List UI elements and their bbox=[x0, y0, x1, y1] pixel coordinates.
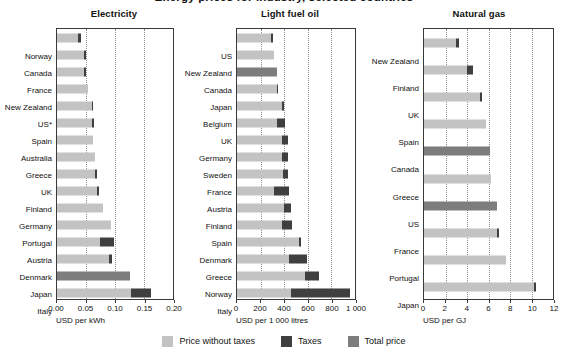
bar-segment-taxes bbox=[100, 237, 114, 246]
x-tick bbox=[489, 300, 490, 303]
bar-segment-price-without-taxes bbox=[237, 101, 282, 110]
bar-segment-price-without-taxes bbox=[237, 254, 289, 263]
x-tick-label: 0.20 bbox=[166, 304, 182, 313]
x-tick bbox=[510, 300, 511, 303]
bar-segment-taxes bbox=[467, 65, 473, 74]
figure-title: Energy prices for industry, selected cou… bbox=[0, 0, 568, 3]
x-tick bbox=[445, 300, 446, 303]
bar-spain bbox=[237, 220, 292, 229]
bar-segment-taxes bbox=[282, 101, 283, 110]
bar-new-zealand bbox=[237, 50, 274, 59]
x-axis-title: USD per GJ bbox=[423, 316, 466, 325]
category-label: Sweden bbox=[203, 172, 232, 180]
bar-segment-price-without-taxes bbox=[424, 93, 480, 102]
gridline bbox=[308, 29, 309, 299]
category-label: Portugal bbox=[389, 275, 419, 283]
x-tick bbox=[284, 300, 285, 303]
bar-denmark bbox=[237, 237, 301, 246]
bar-segment-total-price bbox=[424, 147, 490, 156]
bar-segment-taxes bbox=[305, 271, 319, 280]
category-label: Finland bbox=[26, 206, 52, 214]
x-axis-title: USD per 1 000 litres bbox=[236, 316, 308, 325]
x-tick bbox=[467, 300, 468, 303]
bar-segment-total-price bbox=[237, 67, 277, 76]
bar-segment-taxes bbox=[109, 254, 112, 263]
category-label: Greece bbox=[26, 172, 52, 180]
category-label: Australia bbox=[21, 155, 52, 163]
bar-germany bbox=[57, 203, 103, 212]
bar-austria bbox=[237, 186, 289, 195]
x-tick-label: 800 bbox=[325, 304, 338, 313]
bar-segment-taxes bbox=[282, 135, 287, 144]
category-label: US bbox=[408, 221, 419, 229]
bar-segment-price-without-taxes bbox=[424, 229, 497, 238]
bar-segment-taxes bbox=[95, 169, 97, 178]
bar-segment-taxes bbox=[289, 254, 307, 263]
bar-canada bbox=[57, 50, 86, 59]
bar-segment-price-without-taxes bbox=[424, 65, 467, 74]
category-label: Portugal bbox=[22, 240, 52, 248]
bar-segment-price-without-taxes bbox=[57, 186, 97, 195]
x-tick bbox=[174, 300, 175, 303]
bar-segment-price-without-taxes bbox=[57, 33, 78, 42]
x-tick-label: 0 bbox=[421, 304, 425, 313]
bar-segment-price-without-taxes bbox=[57, 152, 95, 161]
bar-segment-price-without-taxes bbox=[237, 186, 274, 195]
bar-segment-taxes bbox=[291, 288, 350, 297]
x-tick-label: 400 bbox=[277, 304, 290, 313]
bar-segment-taxes bbox=[534, 283, 537, 292]
bar-segment-taxes bbox=[78, 33, 81, 42]
gridline bbox=[510, 29, 511, 299]
bar-segment-total-price bbox=[57, 271, 130, 280]
x-tick bbox=[554, 300, 555, 303]
bar-sweden bbox=[237, 152, 288, 161]
category-label: Spain bbox=[212, 240, 232, 248]
bar-segment-price-without-taxes bbox=[237, 152, 282, 161]
bar-segment-price-without-taxes bbox=[424, 120, 486, 129]
category-label: Denmark bbox=[200, 257, 232, 265]
bar-segment-taxes bbox=[92, 118, 94, 127]
bar-france bbox=[57, 67, 86, 76]
x-tick bbox=[332, 300, 333, 303]
bar-segment-taxes bbox=[274, 186, 289, 195]
chart-panel-electricity: ElectricityNorwayCanadaFranceNew Zealand… bbox=[0, 8, 186, 323]
gridline bbox=[144, 29, 145, 299]
bar-norway bbox=[237, 271, 319, 280]
legend-swatch-tax bbox=[281, 336, 292, 347]
category-label: France bbox=[207, 189, 232, 197]
bar-segment-price-without-taxes bbox=[424, 256, 506, 265]
category-label: Austria bbox=[27, 257, 52, 265]
x-tick-label: 0.05 bbox=[78, 304, 94, 313]
bar-denmark bbox=[57, 254, 112, 263]
bar-segment-price-without-taxes bbox=[424, 283, 534, 292]
bar-segment-price-without-taxes bbox=[57, 84, 88, 93]
bar-segment-price-without-taxes bbox=[57, 220, 111, 229]
x-tick bbox=[356, 300, 357, 303]
bar-segment-price-without-taxes bbox=[237, 220, 282, 229]
category-label: Finland bbox=[206, 223, 232, 231]
bar-segment-price-without-taxes bbox=[237, 84, 277, 93]
chart-panel-light-fuel-oil: Light fuel oilUSNew ZealandCanadaJapanBe… bbox=[182, 8, 368, 323]
bar-segment-taxes bbox=[283, 169, 288, 178]
category-label: UK bbox=[41, 189, 52, 197]
category-label: Canada bbox=[24, 70, 52, 78]
bar-segment-price-without-taxes bbox=[57, 237, 100, 246]
legend-swatch-total bbox=[348, 336, 359, 347]
bar-spain bbox=[424, 120, 486, 129]
bar-segment-taxes bbox=[282, 220, 292, 229]
x-tick-label: 2 bbox=[443, 304, 447, 313]
bar-segment-taxes bbox=[282, 152, 287, 161]
legend-item-tax: Taxes bbox=[281, 336, 322, 347]
x-tick-label: 200 bbox=[253, 304, 266, 313]
x-tick bbox=[532, 300, 533, 303]
x-tick-label: 0.10 bbox=[107, 304, 123, 313]
x-tick bbox=[423, 300, 424, 303]
bar-greece bbox=[237, 254, 307, 263]
x-tick bbox=[236, 300, 237, 303]
bar-segment-taxes bbox=[84, 67, 86, 76]
x-tick-label: 10 bbox=[528, 304, 537, 313]
category-label: Spain bbox=[32, 138, 52, 146]
category-label: US bbox=[221, 53, 232, 61]
gridline bbox=[532, 29, 533, 299]
category-label: Germany bbox=[199, 155, 232, 163]
